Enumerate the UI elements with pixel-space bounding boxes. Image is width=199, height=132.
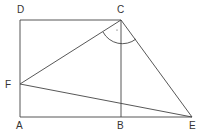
segment-FE	[20, 84, 192, 117]
label-D: D	[17, 4, 24, 15]
segment-CF	[20, 20, 121, 84]
label-C: C	[117, 4, 124, 15]
segment-CE	[121, 20, 192, 117]
label-E: E	[189, 120, 196, 131]
geometry-diagram: D C F A B E	[0, 0, 199, 132]
label-A: A	[16, 120, 23, 131]
label-F: F	[5, 79, 11, 90]
angle-dot	[116, 29, 117, 30]
label-B: B	[117, 120, 124, 131]
